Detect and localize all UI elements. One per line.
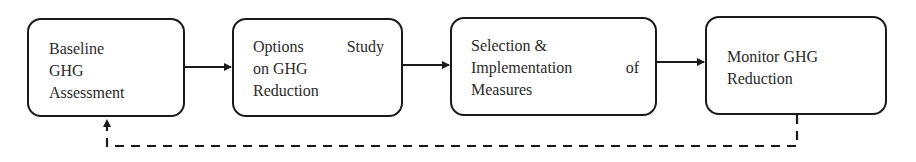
node-baseline-ghg-assessment: Baseline GHG Assessment bbox=[27, 18, 185, 117]
word: Implementation bbox=[471, 57, 572, 79]
node-label-line: Reduction bbox=[727, 68, 818, 90]
node-monitor-ghg-reduction: Monitor GHG Reduction bbox=[705, 16, 887, 115]
node-selection-implementation: Selection & Implementationof Measures bbox=[450, 17, 657, 116]
node-label-line: on GHG bbox=[253, 58, 384, 80]
node-label-line: Monitor GHG bbox=[727, 46, 818, 68]
node-label-line: Implementationof bbox=[471, 57, 639, 79]
node-label-line: Reduction bbox=[253, 80, 384, 102]
node-label-line: Selection & bbox=[471, 35, 639, 57]
node-label-line: Assessment bbox=[49, 82, 125, 104]
word: of bbox=[626, 57, 639, 79]
node-label-line: Measures bbox=[471, 79, 639, 101]
word: Options bbox=[253, 36, 304, 58]
node-label-line: OptionsStudy bbox=[253, 36, 384, 58]
node-label-line: Baseline bbox=[49, 38, 125, 60]
word: Study bbox=[347, 36, 384, 58]
dashed-feedback-loop bbox=[107, 115, 797, 146]
node-options-study: OptionsStudy on GHG Reduction bbox=[232, 18, 403, 117]
node-label-line: GHG bbox=[49, 60, 125, 82]
